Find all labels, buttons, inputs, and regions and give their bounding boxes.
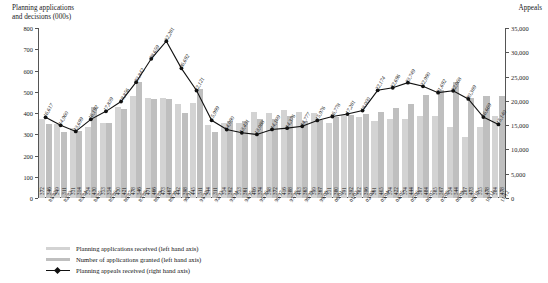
legend-label: Planning appeals received (right hand ax…: [76, 267, 190, 274]
left-axis-tick-label: 0: [30, 195, 33, 202]
left-axis-tick: [35, 198, 38, 199]
right-axis-tick-label: 20,000: [511, 97, 529, 104]
planning-applications-chart: Planning applications and decisions (000…: [0, 0, 548, 283]
right-axis-tick-label: 25,000: [511, 73, 529, 80]
left-axis-tick-label: 100: [23, 173, 33, 180]
left-axis-tick-label: 600: [23, 67, 33, 74]
chart-legend: Planning applications received (left han…: [46, 243, 201, 276]
appeals-line-series: [38, 28, 506, 198]
right-axis-tick-label: 30,000: [511, 49, 529, 56]
right-axis-tick: [506, 52, 509, 53]
x-axis-labels: 81/8282/8383/8484/8585/8686/8787/8888/89…: [38, 200, 506, 236]
legend-item-appeals[interactable]: Planning appeals received (right hand ax…: [46, 265, 201, 276]
left-axis-tick-label: 500: [23, 88, 33, 95]
legend-label: Number of applications granted (left han…: [76, 256, 201, 263]
legend-item-granted[interactable]: Number of applications granted (left han…: [46, 254, 201, 265]
right-axis-tick: [506, 28, 509, 29]
left-axis-tick-label: 800: [23, 25, 33, 32]
legend-item-received[interactable]: Planning applications received (left han…: [46, 243, 201, 254]
left-axis-title: Planning applications and decisions (000…: [12, 4, 74, 22]
right-axis-title: Appeals: [518, 4, 542, 13]
right-axis-tick-label: 10,000: [511, 146, 529, 153]
right-axis-tick: [506, 149, 509, 150]
left-axis-tick-label: 300: [23, 131, 33, 138]
legend-label: Planning applications received (left han…: [76, 245, 199, 252]
right-axis-tick-label: 5,000: [511, 170, 525, 177]
right-axis-tick: [506, 125, 509, 126]
legend-swatch-icon: [46, 247, 70, 250]
right-axis-tick: [506, 101, 509, 102]
legend-line-marker-icon: [46, 269, 70, 272]
left-axis-tick-label: 400: [23, 110, 33, 117]
right-axis-tick-label: 0: [511, 195, 514, 202]
plot-area: 0100200300400500600700800 05,00010,00015…: [38, 28, 506, 198]
right-axis-tick: [506, 174, 509, 175]
legend-swatch-icon: [46, 258, 70, 261]
left-axis-tick-label: 700: [23, 46, 33, 53]
right-axis-tick-label: 15,000: [511, 122, 529, 129]
right-axis-tick: [506, 77, 509, 78]
left-axis-tick-label: 200: [23, 152, 33, 159]
right-axis-tick-label: 35,000: [511, 25, 529, 32]
